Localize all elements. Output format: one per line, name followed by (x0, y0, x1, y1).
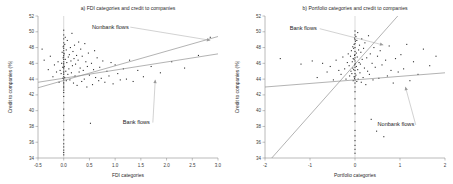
data-point (91, 63, 92, 64)
data-point (65, 59, 66, 60)
data-point (356, 40, 357, 41)
data-point (63, 63, 64, 64)
data-point (63, 129, 64, 130)
data-point (338, 70, 339, 71)
y-tick-label: 36 (256, 140, 262, 145)
data-point (93, 69, 94, 70)
data-point (94, 50, 95, 51)
data-point (406, 44, 407, 45)
data-point (354, 105, 355, 106)
data-point (352, 46, 353, 47)
data-point (354, 59, 355, 60)
y-tick-label: 34 (29, 156, 35, 161)
data-point (66, 49, 67, 50)
data-point (361, 82, 362, 83)
data-point (376, 131, 377, 132)
data-point (89, 75, 90, 76)
x-tick-label: 0.0 (61, 163, 68, 168)
data-point (102, 60, 103, 61)
x-tick-label: -1 (308, 163, 312, 168)
data-point (363, 77, 364, 78)
data-point (354, 113, 355, 114)
data-point (78, 60, 79, 61)
data-point (63, 135, 64, 136)
data-point (63, 76, 64, 77)
y-tick-label: 50 (256, 29, 262, 34)
data-point (160, 72, 161, 73)
y-tick-label: 42 (29, 92, 35, 97)
panel-a-svg: a) FDI categories and credit to companie… (0, 0, 226, 184)
data-point (371, 119, 372, 120)
data-point (317, 77, 318, 78)
data-point (429, 65, 430, 66)
data-point (364, 68, 365, 69)
data-point (78, 41, 79, 42)
data-point (368, 35, 369, 36)
data-point (108, 75, 109, 76)
data-point (63, 45, 64, 46)
data-point (63, 56, 64, 57)
data-point (381, 64, 382, 65)
data-point (85, 61, 86, 62)
x-tick-label: 0.5 (86, 163, 93, 168)
annotation-label-nonbank-flows: Nonbank flows (92, 24, 129, 30)
data-point (359, 72, 360, 73)
data-point (358, 49, 359, 50)
plot-group: b) Portfolio categories and credit to co… (235, 5, 447, 178)
x-tick-label: 1.0 (112, 163, 119, 168)
data-point (354, 30, 355, 31)
data-point (120, 79, 121, 80)
data-point (97, 57, 98, 58)
data-point (63, 50, 64, 51)
data-point (67, 74, 68, 75)
data-point (357, 32, 358, 33)
data-point (375, 67, 376, 68)
y-axis-label: Credit to companies (%) (235, 60, 240, 113)
data-point (341, 74, 342, 75)
data-point (63, 38, 64, 39)
data-point (327, 71, 328, 72)
x-tick-label: 2 (444, 163, 447, 168)
data-point (54, 64, 55, 65)
data-point (354, 149, 355, 150)
data-point (71, 33, 72, 34)
data-point (99, 67, 100, 68)
data-point (79, 71, 80, 72)
data-point (63, 55, 64, 56)
y-tick-label: 48 (256, 45, 262, 50)
data-point (354, 47, 355, 48)
data-point (365, 84, 366, 85)
data-point (377, 56, 378, 57)
y-tick-label: 52 (256, 14, 262, 19)
data-point (354, 140, 355, 141)
data-point (42, 49, 43, 50)
data-point (63, 139, 64, 140)
data-point (342, 56, 343, 57)
data-point (354, 145, 355, 146)
data-point (80, 49, 81, 50)
data-point (73, 58, 74, 59)
data-point (354, 73, 355, 74)
data-point (63, 154, 64, 155)
data-point (63, 64, 64, 65)
data-point (63, 152, 64, 153)
data-point (435, 56, 436, 57)
figure-root: a) FDI categories and credit to companie… (0, 0, 453, 184)
data-point (354, 91, 355, 92)
data-point (101, 78, 102, 79)
data-point (50, 56, 51, 57)
chart-title: a) FDI categories and credit to companie… (81, 5, 176, 11)
data-point (393, 83, 394, 84)
data-point (356, 81, 357, 82)
data-point (370, 53, 371, 54)
data-point (373, 47, 374, 48)
data-point (348, 53, 349, 54)
data-point (354, 76, 355, 77)
data-point (64, 44, 65, 45)
plot-group: a) FDI categories and credit to companie… (8, 5, 222, 178)
data-point (354, 51, 355, 52)
data-point (61, 63, 62, 64)
chart-title: b) Portfolio categories and credit to co… (302, 5, 407, 11)
data-point (312, 60, 313, 61)
data-point (63, 121, 64, 122)
